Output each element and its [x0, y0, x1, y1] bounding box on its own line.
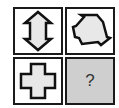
puzzle-cell-3	[13, 57, 63, 105]
puzzle-cell-2	[65, 7, 115, 55]
question-mark: ?	[67, 59, 113, 103]
rotated-arrow-hexagon-icon	[67, 9, 113, 53]
vertical-arrow-hexagon-icon	[15, 9, 61, 53]
puzzle-cell-unknown[interactable]: ?	[65, 57, 115, 105]
puzzle-grid: ?	[13, 7, 117, 107]
cross-icon	[15, 59, 61, 103]
puzzle-cell-1	[13, 7, 63, 55]
